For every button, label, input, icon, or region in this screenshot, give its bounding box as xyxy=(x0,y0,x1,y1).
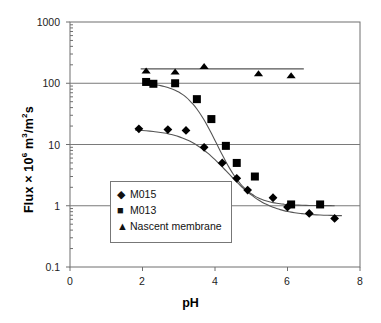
plot-area xyxy=(0,0,381,323)
diamond-marker-icon: ◆ xyxy=(117,189,130,200)
data-point-square xyxy=(233,159,241,167)
data-point-diamond xyxy=(182,126,191,135)
legend-item-m015: ◆ M015 xyxy=(117,186,224,202)
square-marker-icon: ■ xyxy=(117,205,130,216)
data-point-square xyxy=(193,95,201,103)
data-point-square xyxy=(142,78,150,86)
series-nascent-membrane xyxy=(142,63,296,78)
data-point-diamond xyxy=(269,193,278,202)
data-point-square xyxy=(287,200,295,208)
data-point-square xyxy=(222,142,230,150)
data-point-square xyxy=(251,173,259,181)
legend-item-nascent-membrane: ▲ Nascent membrane xyxy=(117,218,224,234)
data-point-diamond xyxy=(134,124,143,133)
data-point-triangle xyxy=(287,72,296,78)
chart-legend: ◆ M015 ■ M013 ▲ Nascent membrane xyxy=(110,181,232,243)
legend-item-m013: ■ M013 xyxy=(117,202,224,218)
legend-label-m013: M013 xyxy=(130,204,156,216)
legend-label-nascent-membrane: Nascent membrane xyxy=(130,220,222,232)
data-point-square xyxy=(316,200,324,208)
data-point-triangle xyxy=(200,63,209,69)
data-point-square xyxy=(207,115,215,123)
data-point-triangle xyxy=(254,70,263,76)
triangle-marker-icon: ▲ xyxy=(117,221,130,232)
data-point-square xyxy=(171,79,179,87)
data-point-square xyxy=(149,80,157,88)
legend-label-m015: M015 xyxy=(130,188,156,200)
data-point-diamond xyxy=(305,209,314,218)
chart-figure: Flux × 106 m3/m2s pH 1000 100 10 1 0.1 0… xyxy=(0,0,381,323)
